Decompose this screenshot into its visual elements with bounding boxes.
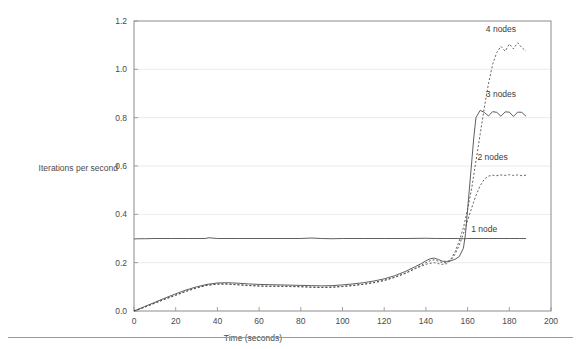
- y-tick-label: 1.2: [115, 16, 127, 26]
- series-annotation-3-nodes: 3 nodes: [486, 89, 516, 99]
- x-tick-label: 20: [171, 316, 181, 326]
- x-tick-label: 140: [419, 316, 433, 326]
- y-tick-label: 0.2: [115, 258, 127, 268]
- series-annotation-2-nodes: 2 nodes: [477, 152, 507, 162]
- y-tick-label: 0.8: [115, 113, 127, 123]
- x-tick-label: 100: [335, 316, 349, 326]
- x-tick-label: 0: [132, 316, 137, 326]
- y-tick-label: 0.0: [115, 306, 127, 316]
- x-tick-label: 160: [461, 316, 475, 326]
- series-annotation-4-nodes: 4 nodes: [486, 24, 516, 34]
- x-tick-label: 60: [254, 316, 264, 326]
- x-tick-label: 120: [377, 316, 391, 326]
- x-tick-label: 180: [502, 316, 516, 326]
- x-tick-label: 200: [544, 316, 558, 326]
- y-axis-label: Iterations per second: [39, 163, 119, 173]
- figure-background: [0, 0, 581, 349]
- x-tick-label: 80: [296, 316, 306, 326]
- y-tick-label: 1.0: [115, 64, 127, 74]
- y-tick-label: 0.4: [115, 209, 127, 219]
- x-tick-label: 40: [213, 316, 223, 326]
- chart-figure: 020406080100120140160180200 0.00.20.40.6…: [0, 0, 581, 349]
- series-annotation-1-node: 1 node: [471, 224, 497, 234]
